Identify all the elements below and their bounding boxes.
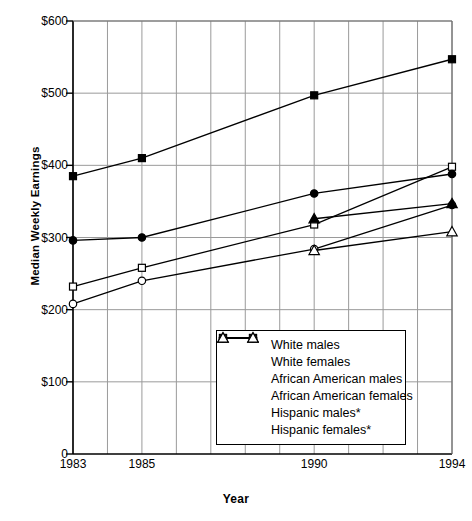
open-triangle-icon [224, 423, 266, 437]
data-point-marker [311, 92, 318, 99]
series-line [73, 167, 452, 287]
legend-item-6: Hispanic females* [224, 421, 398, 438]
data-point-marker [448, 170, 455, 177]
chart-figure: 0$100$200$300$400$500$600 19831985199019… [0, 0, 472, 521]
data-point-marker [449, 56, 456, 63]
data-point-marker [69, 300, 76, 307]
open-square-icon [224, 355, 266, 369]
series-line [73, 205, 452, 304]
legend-item-label: African American females [266, 389, 413, 403]
chart-legend: White malesWhite femalesAfrican American… [216, 330, 406, 445]
open-circle-icon [224, 389, 266, 403]
filled-circle-icon [224, 372, 266, 386]
legend-item-label: White females [266, 355, 350, 369]
data-point-marker [70, 283, 77, 290]
data-point-marker [310, 190, 317, 197]
data-point-marker [70, 173, 77, 180]
series-line [73, 174, 452, 240]
data-point-marker [138, 277, 145, 284]
legend-item-2: White females [224, 353, 398, 370]
series-3 [69, 170, 455, 244]
x-tick-label: 1985 [112, 458, 172, 470]
x-tick-label: 1994 [422, 458, 472, 470]
series-line [73, 59, 452, 176]
legend-item-label: African American males [266, 372, 402, 386]
data-point-marker [138, 234, 145, 241]
legend-item-4: African American females [224, 387, 398, 404]
series-4 [69, 201, 455, 307]
y-tick-label: $100 [10, 376, 68, 388]
data-point-marker [138, 264, 145, 271]
y-tick-label: $500 [10, 87, 68, 99]
data-point-marker [138, 155, 145, 162]
legend-item-label: Hispanic males* [266, 406, 361, 420]
series-1 [70, 56, 456, 180]
legend-item-label: Hispanic females* [266, 423, 371, 437]
y-tick-label: $600 [10, 15, 68, 27]
x-tick-label: 1983 [43, 458, 103, 470]
data-point-marker [449, 163, 456, 170]
data-point-marker [69, 237, 76, 244]
x-axis-title: Year [0, 492, 472, 506]
data-point-marker [447, 227, 457, 236]
legend-item-label: White males [266, 338, 340, 352]
legend-item-5: Hispanic males* [224, 404, 398, 421]
x-tick-label: 1990 [284, 458, 344, 470]
y-axis-title: Median Weekly Earnings [29, 121, 41, 311]
filled-triangle-icon [224, 406, 266, 420]
legend-item-3: African American males [224, 370, 398, 387]
